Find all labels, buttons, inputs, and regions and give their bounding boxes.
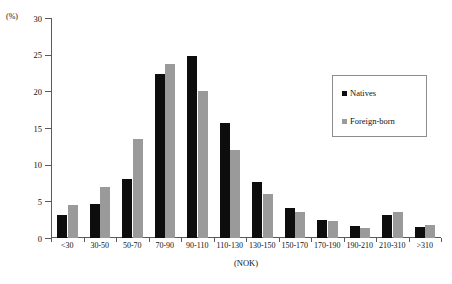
y-axis-tick: 10: [45, 165, 51, 166]
y-axis-tick: 5: [45, 201, 51, 202]
y-axis-unit-label: (%): [6, 12, 18, 21]
bar-natives-210-310: [382, 215, 392, 238]
bar-foreign-born-210-310: [393, 212, 403, 238]
bar-natives-170-190: [317, 220, 327, 238]
gray-square-icon: [342, 119, 347, 124]
x-axis-category-label: 50-70: [116, 242, 149, 250]
legend-item-natives: Natives: [342, 89, 376, 98]
bar-foreign-born-110-130: [230, 150, 240, 238]
x-axis-category-label: 30-50: [84, 242, 117, 250]
legend-item-foreign-born: Foreign-born: [342, 117, 395, 126]
bar-foreign-born-30-50: [100, 187, 110, 238]
y-axis-tick: 25: [45, 55, 51, 56]
bar-natives-110-130: [220, 123, 230, 238]
x-axis-category-label: 190-210: [344, 242, 377, 250]
bar-natives-30-50: [90, 204, 100, 238]
x-axis-category-label: 110-130: [214, 242, 247, 250]
y-axis-line: [51, 18, 52, 238]
bar-natives-50-70: [122, 179, 132, 238]
chart-legend: Natives Foreign-born: [332, 75, 427, 137]
bar-foreign-born-90-110: [198, 91, 208, 238]
y-axis-tick-label: 30: [34, 14, 43, 23]
bar-natives-70-90: [155, 74, 165, 238]
x-axis-category-label: 90-110: [181, 242, 214, 250]
x-axis-category-label: 150-170: [279, 242, 312, 250]
x-axis-category-label: <30: [51, 242, 84, 250]
y-axis-tick: 30: [45, 18, 51, 19]
bar-foreign-born-170-190: [328, 221, 338, 238]
bar-foreign-born-190-210: [360, 228, 370, 238]
bar-natives-190-210: [350, 226, 360, 238]
x-axis-category-label: 170-190: [311, 242, 344, 250]
x-axis-category-label: >310: [409, 242, 442, 250]
y-axis-tick-label: 20: [34, 88, 43, 97]
y-axis-tick: 15: [45, 128, 51, 129]
legend-label-foreign-born: Foreign-born: [350, 117, 395, 126]
bar-foreign-born-150-170: [295, 212, 305, 238]
bar-foreign-born--310: [425, 225, 435, 238]
bar-natives-150-170: [285, 208, 295, 238]
bar-natives--30: [57, 215, 67, 238]
bar-natives--310: [415, 227, 425, 238]
y-axis-tick: 20: [45, 91, 51, 92]
y-axis-tick-label: 10: [34, 161, 43, 170]
x-axis-title: (NOK): [51, 258, 441, 268]
bar-natives-90-110: [187, 56, 197, 238]
bar-foreign-born-70-90: [165, 64, 175, 238]
bar-foreign-born-50-70: [133, 139, 143, 238]
bar-chart: (%) 051015202530<3030-5050-7070-9090-110…: [0, 0, 452, 284]
x-axis-category-label: 70-90: [149, 242, 182, 250]
x-axis-tick: [441, 238, 442, 242]
bar-foreign-born--30: [68, 205, 78, 238]
y-axis-tick-label: 25: [34, 51, 43, 60]
x-axis-category-label: 210-310: [376, 242, 409, 250]
y-axis-tick-label: 5: [38, 198, 42, 207]
y-axis-tick-label: 15: [34, 124, 43, 133]
legend-label-natives: Natives: [350, 89, 376, 98]
y-axis-tick-label: 0: [38, 234, 42, 243]
black-square-icon: [342, 91, 347, 96]
x-axis-category-label: 130-150: [246, 242, 279, 250]
bar-natives-130-150: [252, 182, 262, 238]
bar-foreign-born-130-150: [263, 194, 273, 238]
